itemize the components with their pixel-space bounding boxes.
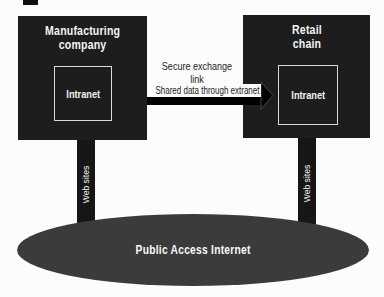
retail-web-sites-bar: Web sites xyxy=(298,138,316,228)
manufacturing-title-line2: company xyxy=(45,38,120,52)
manufacturing-title-line1: Manufacturing xyxy=(45,24,120,38)
scan-artifact xyxy=(23,0,38,5)
manufacturing-web-sites-label: Web sites xyxy=(81,165,92,202)
arrow-shaft xyxy=(147,97,261,105)
secure-exchange-link-label: Secure exchange link xyxy=(150,60,245,86)
retail-chain-title: Retail chain xyxy=(292,23,322,51)
manufacturing-web-sites-bar: Web sites xyxy=(77,140,95,228)
retail-web-sites-label: Web sites xyxy=(302,164,313,201)
manufacturing-company-title: Manufacturing company xyxy=(45,24,120,52)
retail-intranet-box: Intranet xyxy=(278,65,338,125)
retail-title-line1: Retail xyxy=(292,23,322,37)
public-access-internet-ellipse: Public Access Internet xyxy=(17,214,369,286)
manufacturing-intranet-label: Intranet xyxy=(66,88,100,100)
public-access-internet-label: Public Access Internet xyxy=(136,243,251,257)
secure-exchange-line1: Secure exchange xyxy=(150,60,245,73)
arrow-head xyxy=(261,82,273,109)
retail-intranet-label: Intranet xyxy=(291,89,325,101)
shared-data-extranet-label: Shared data through extranet xyxy=(154,84,261,97)
manufacturing-intranet-box: Intranet xyxy=(54,66,112,121)
retail-title-line2: chain xyxy=(292,37,322,51)
extranet-diagram: Manufacturing company Retail chain Intra… xyxy=(0,0,384,297)
